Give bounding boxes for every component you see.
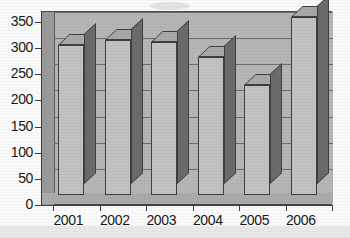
bar-front-face xyxy=(291,17,317,195)
plot-area xyxy=(41,11,332,205)
bar-2004 xyxy=(198,12,224,206)
y-tick-0 xyxy=(35,205,42,206)
bar-front-face xyxy=(244,85,270,195)
y-tick-label: 0 xyxy=(0,196,33,212)
y-tick-250 xyxy=(35,74,42,75)
x-tick-label: 2004 xyxy=(185,212,232,228)
y-tick-200 xyxy=(35,100,42,101)
x-tick-2003 xyxy=(146,205,147,211)
y-tick-150 xyxy=(35,127,42,128)
x-axis-line xyxy=(41,205,332,206)
x-tick-2006 xyxy=(286,205,287,211)
x-tick-label: 2005 xyxy=(231,212,278,228)
x-tick-2001 xyxy=(53,205,54,211)
x-tick-label: 2002 xyxy=(92,212,139,228)
y-tick-label: 300 xyxy=(0,39,33,55)
y-tick-label: 100 xyxy=(0,144,33,160)
y-tick-350 xyxy=(35,22,42,23)
bar-front-face xyxy=(151,42,177,195)
chart-floor xyxy=(42,193,333,204)
x-tick-label: 2003 xyxy=(138,212,185,228)
y-tick-100 xyxy=(35,153,42,154)
bar-2003 xyxy=(151,12,177,206)
y-tick-label: 200 xyxy=(0,91,33,107)
x-tick-2005 xyxy=(239,205,240,211)
bar-2006 xyxy=(291,12,317,206)
bar-side-face xyxy=(317,0,329,184)
bar-2002 xyxy=(105,12,131,206)
bar-front-face xyxy=(198,57,224,195)
y-axis-line xyxy=(41,11,42,205)
bar-side-face xyxy=(270,63,282,184)
y-tick-label: 150 xyxy=(0,118,33,134)
bar-side-face xyxy=(224,35,236,183)
y-tick-label: 50 xyxy=(0,170,33,186)
x-tick-2002 xyxy=(100,205,101,211)
y-tick-label: 250 xyxy=(0,65,33,81)
y-tick-50 xyxy=(35,179,42,180)
scan-smudge-top xyxy=(150,2,190,10)
bar-side-face xyxy=(84,23,96,184)
x-tick-label: 2006 xyxy=(278,212,325,228)
y-tick-300 xyxy=(35,48,42,49)
bar-front-face xyxy=(58,45,84,195)
x-tick-end xyxy=(332,205,333,211)
bar-front-face xyxy=(105,40,131,195)
bar-chart: 050100150200250300350 200120022003200420… xyxy=(0,0,350,238)
x-tick-2004 xyxy=(193,205,194,211)
bar-2001 xyxy=(58,12,84,206)
bar-side-face xyxy=(131,18,143,184)
bar-2005 xyxy=(244,12,270,206)
x-tick-label: 2001 xyxy=(45,212,92,228)
bar-side-face xyxy=(177,20,189,184)
y-tick-label: 350 xyxy=(0,13,33,29)
chart-left-wall xyxy=(42,12,54,206)
